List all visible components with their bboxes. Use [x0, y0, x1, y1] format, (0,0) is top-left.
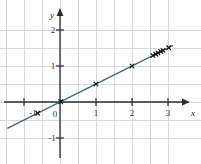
scatter-plot-figure: -1 0 1 2 3 2 1 -1 x y [0, 0, 201, 164]
x-tick-label-2: 2 [130, 108, 135, 118]
x-tick-label-3: 3 [166, 108, 171, 118]
x-axis-title: x [190, 108, 195, 118]
origin-label: 0 [53, 109, 58, 119]
y-tick-label-1: 1 [51, 61, 56, 71]
plot-canvas: -1 0 1 2 3 2 1 -1 x y [0, 0, 201, 164]
y-tick-label-neg1: -1 [48, 133, 56, 143]
y-tick-label-2: 2 [51, 25, 56, 35]
y-axis-title: y [49, 10, 54, 20]
x-tick-label-neg1: -1 [29, 108, 37, 118]
x-tick-label-1: 1 [94, 108, 99, 118]
